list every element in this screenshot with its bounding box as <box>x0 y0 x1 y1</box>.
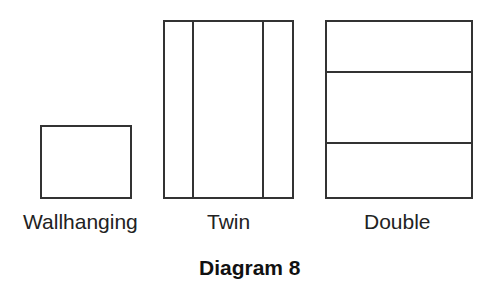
wallhanging-rectangle <box>40 125 132 199</box>
twin-rectangle <box>163 20 294 199</box>
diagram-caption: Diagram 8 <box>199 256 301 280</box>
twin-right-divider <box>262 20 264 199</box>
wallhanging-label: Wallhanging <box>23 210 138 234</box>
double-rectangle <box>325 20 473 199</box>
twin-left-divider <box>192 20 194 199</box>
double-label: Double <box>364 210 431 234</box>
twin-label: Twin <box>207 210 250 234</box>
double-top-divider <box>325 71 473 73</box>
double-bottom-divider <box>325 142 473 144</box>
